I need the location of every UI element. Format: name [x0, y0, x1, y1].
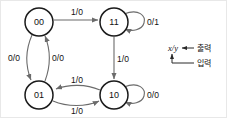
- legend-notation: x/y: [167, 43, 178, 53]
- state-diagram: 1/0 0/1 1/0 0/0 0/0 1/0 1/: [1, 1, 227, 118]
- state-label: 01: [34, 90, 44, 100]
- state-label: 11: [109, 17, 118, 27]
- legend-output-label: 출력: [197, 43, 211, 53]
- transition-label: 0/0: [147, 90, 159, 100]
- transition-arrow: [56, 85, 100, 90]
- transition-arrow: [45, 36, 50, 81]
- transition-11-self-loop: 0/1: [124, 12, 159, 30]
- state-node-00[interactable]: 00: [25, 8, 53, 36]
- transition-arrow: [27, 35, 32, 80]
- transition-label: 1/0: [71, 75, 83, 85]
- transition-label: 1/0: [117, 54, 129, 64]
- transition-label: 1/0: [71, 106, 83, 116]
- transition-label: 0/0: [52, 53, 64, 63]
- state-label: 10: [109, 90, 119, 100]
- transition-label: 0/1: [147, 17, 159, 27]
- legend: x/y 출력 입력: [167, 43, 211, 68]
- state-node-11[interactable]: 11: [100, 8, 128, 36]
- transition-label: 1/0: [71, 7, 83, 17]
- transition-10-self-loop: 0/0: [124, 85, 159, 103]
- transition-01-to-10: 1/0: [53, 101, 99, 116]
- legend-input-arrow: [172, 54, 194, 63]
- transition-arrow: [53, 101, 99, 106]
- state-label: 00: [34, 17, 44, 27]
- transition-01-to-00: 0/0: [45, 36, 64, 81]
- state-node-10[interactable]: 10: [100, 81, 128, 109]
- legend-input-label: 입력: [197, 58, 211, 68]
- transition-00-to-11: 1/0: [54, 7, 98, 20]
- diagram-canvas: 1/0 0/1 1/0 0/0 0/0 1/0 1/: [0, 0, 227, 118]
- transition-00-to-01: 0/0: [8, 35, 32, 80]
- transition-11-to-10: 1/0: [114, 37, 129, 79]
- transition-10-to-01: 1/0: [56, 75, 100, 90]
- state-node-01[interactable]: 01: [25, 81, 53, 109]
- transition-label: 0/0: [8, 53, 20, 63]
